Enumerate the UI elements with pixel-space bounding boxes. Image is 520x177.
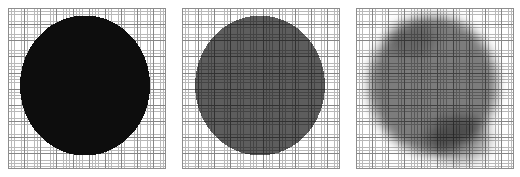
minor-grid-lines: [182, 8, 340, 169]
circle-mask-layer: [8, 8, 166, 169]
binary-circle-svg: [8, 8, 166, 169]
panel-border: [356, 8, 514, 169]
circle-mask-layer: [182, 8, 340, 169]
blur-dark-smudge: [428, 116, 490, 162]
major-grid-lines: [182, 8, 340, 169]
blur-highlight-smudge: [386, 22, 436, 56]
binary-mask-panel: [8, 8, 166, 169]
three-panel-figure: [0, 0, 520, 177]
panel-border: [182, 8, 340, 169]
blurred-mask-panel: [356, 8, 514, 169]
gray-mask-panel: [182, 8, 340, 169]
binary-circle-shape: [20, 16, 150, 156]
minor-grid-lines: [356, 8, 514, 169]
blurred-circle-shape: [369, 16, 497, 154]
major-grid-lines: [8, 8, 166, 169]
minor-grid-lines: [8, 8, 166, 169]
major-grid-lines: [356, 8, 514, 169]
gray-circle-svg: [182, 8, 340, 169]
gray-circle-shape: [195, 16, 325, 156]
circle-mask-layer: [356, 8, 514, 169]
panel-border: [8, 8, 166, 169]
